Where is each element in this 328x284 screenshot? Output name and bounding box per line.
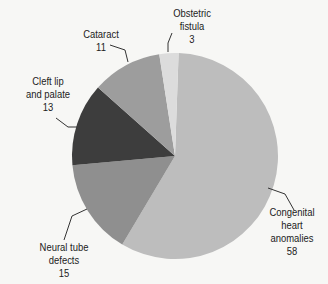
label-text: fistula <box>171 20 214 33</box>
leader-line-neural <box>64 209 87 240</box>
leader-line-cleft <box>56 118 77 127</box>
label-value: 58 <box>267 245 316 258</box>
label-text: defects <box>36 254 92 267</box>
label-text: Neural tube <box>36 241 92 254</box>
label-text: Cataract <box>81 28 122 41</box>
label-value: 13 <box>23 101 72 114</box>
label-cataract: Cataract 11 <box>81 28 122 54</box>
label-value: 11 <box>81 41 122 54</box>
label-value: 15 <box>36 267 92 280</box>
label-text: anomalies <box>267 232 316 245</box>
label-text: Congenital <box>267 206 316 219</box>
label-text: heart <box>267 219 316 232</box>
label-cleft-lip-and-palate: Cleft lip and palate 13 <box>23 75 72 114</box>
label-value: 3 <box>171 33 214 46</box>
label-text: and palate <box>23 88 72 101</box>
label-neural-tube-defects: Neural tube defects 15 <box>36 241 92 280</box>
label-congenital-heart-anomalies: Congenital heart anomalies 58 <box>267 206 316 258</box>
label-text: Cleft lip <box>23 75 72 88</box>
label-text: Obstetric <box>171 7 214 20</box>
label-obstetric-fistula: Obstetric fistula 3 <box>171 7 214 46</box>
